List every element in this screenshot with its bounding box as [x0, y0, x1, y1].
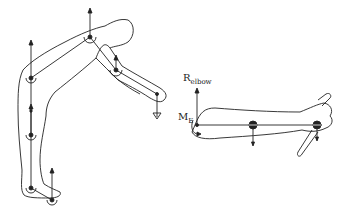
label-moment-elbow: ME: [178, 111, 193, 125]
bent-over-body: [18, 8, 166, 205]
force-arrows: [29, 8, 161, 200]
joint-markers: [26, 35, 159, 205]
forearm-outline: [192, 103, 332, 139]
label-r-elbow: Relbow: [183, 72, 212, 86]
held-object-lower: [297, 130, 318, 156]
segment-trunk: [31, 37, 90, 78]
free-body-diagram: [0, 0, 354, 212]
body-outline: [18, 19, 166, 198]
forearm-hand-segment: [192, 88, 332, 156]
